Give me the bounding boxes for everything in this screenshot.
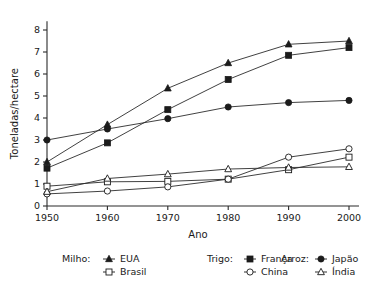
x-axis-title: Ano [188,229,207,240]
legend-entry-china[interactable]: China [244,266,288,277]
legend-entry-japo[interactable]: Japão [315,253,358,264]
data-point-marker-open-circle [286,154,292,160]
y-tick-label: 7 [34,46,40,57]
series-japo [44,97,352,143]
x-tick-label: 1960 [95,212,119,223]
legend-group-2: Arroz:JapãoÍndia [281,253,358,277]
y-tick-label: 5 [34,90,40,101]
series-path [47,167,349,192]
series-ndia [44,163,353,194]
data-point-marker-open-square [106,269,112,275]
data-point-marker-filled-square [286,52,292,58]
legend-group-1: Trigo:FrançaChina [206,253,293,277]
data-point-marker-filled-square [225,77,231,83]
series-path [47,48,349,169]
data-point-marker-open-circle [225,176,231,182]
chart-figure: 012345678195019601970198019902000AnoTone… [0,0,376,282]
y-tick-label: 8 [34,24,40,35]
data-point-marker-filled-triangle [346,37,353,43]
data-point-marker-filled-square [346,45,352,51]
axes-layer [43,21,359,210]
data-point-marker-open-triangle [346,163,353,169]
legend-group-0: Milho:EUABrasil [62,253,146,277]
x-tick-label: 1990 [277,212,301,223]
data-point-marker-filled-circle [346,97,352,103]
chart-legend: Milho:EUABrasilTrigo:FrançaChinaArroz:Ja… [62,253,358,277]
data-point-marker-open-circle [247,269,253,275]
x-tick-label: 1970 [156,212,180,223]
legend-entry-label: Brasil [120,266,146,277]
x-tick-label: 2000 [337,212,361,223]
y-tick-label: 4 [34,112,40,123]
data-point-marker-filled-circle [104,126,110,132]
y-axis-title: Toneladas/hectare [9,68,20,160]
data-point-marker-filled-circle [225,104,231,110]
legend-entry-label: EUA [120,253,140,264]
data-point-marker-open-triangle [318,268,325,274]
legend-entry-label: Índia [332,266,355,277]
line-chart-canvas: 012345678195019601970198019902000AnoTone… [0,0,376,282]
legend-group-label: Trigo: [206,253,233,264]
x-tick-label: 1980 [216,212,240,223]
axis-labels-layer: 012345678195019601970198019902000AnoTone… [9,24,361,240]
x-tick-label: 1950 [35,212,59,223]
data-point-marker-open-circle [104,188,110,194]
data-point-marker-filled-square [104,140,110,146]
data-point-marker-filled-square [165,107,171,113]
series-frana [44,45,352,172]
data-point-marker-open-circle [346,146,352,152]
y-tick-label: 6 [34,68,40,79]
data-point-marker-open-square [346,154,352,160]
data-point-marker-open-circle [165,184,171,190]
data-point-marker-open-triangle [225,165,232,171]
series-eua [44,37,353,164]
data-point-marker-filled-square [44,165,50,171]
y-tick-label: 1 [34,178,40,189]
legend-group-label: Arroz: [281,253,309,264]
data-point-marker-filled-circle [318,256,324,262]
y-tick-label: 3 [34,134,40,145]
series-layer [44,37,353,197]
legend-group-label: Milho: [62,253,91,264]
data-point-marker-filled-circle [165,116,171,122]
data-point-marker-filled-triangle [106,255,113,261]
legend-entry-eua[interactable]: EUA [103,253,140,264]
y-tick-label: 2 [34,156,40,167]
legend-entry-brasil[interactable]: Brasil [103,266,146,277]
data-point-marker-filled-circle [286,100,292,106]
legend-entry-label: Japão [331,253,358,264]
data-point-marker-filled-square [247,256,253,262]
y-tick-label: 0 [34,200,40,211]
legend-entry-label: China [261,266,288,277]
series-path [47,41,349,162]
data-point-marker-filled-circle [44,137,50,143]
legend-entry-ndia[interactable]: Índia [315,266,355,277]
